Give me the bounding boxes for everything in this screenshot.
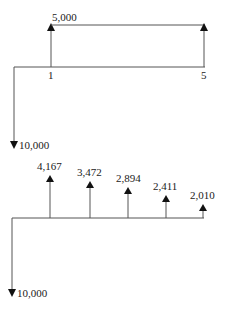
up-arrow-icon [199,204,207,211]
outflow-label: 10,000 [17,287,48,299]
flow-label: 4,167 [37,160,62,172]
flow-label: 2,894 [116,172,141,184]
up-arrow-icon [86,181,94,188]
bottom-cash-flow-diagram: 10,000 4,167 3,472 2,894 2,411 2,010 [8,160,215,299]
down-arrow-icon [10,141,18,149]
period-end-label: 5 [201,69,207,81]
up-arrow-icon [46,175,54,182]
down-arrow-icon [8,289,16,297]
cash-flow-diagrams: 10,000 5,000 1 5 10,000 4,167 3,472 2,89… [0,0,229,310]
flow-label: 3,472 [77,166,102,178]
annuity-label: 5,000 [52,11,77,23]
period-start-label: 1 [48,69,54,81]
up-arrow-icon [124,187,132,194]
top-cash-flow-diagram: 10,000 5,000 1 5 [10,11,208,151]
outflow-label: 10,000 [19,139,50,151]
up-arrow-icon [47,23,55,31]
up-arrow-icon [200,23,208,31]
up-arrow-icon [162,195,170,202]
flow-label: 2,411 [153,180,177,192]
flow-label: 2,010 [190,189,215,201]
